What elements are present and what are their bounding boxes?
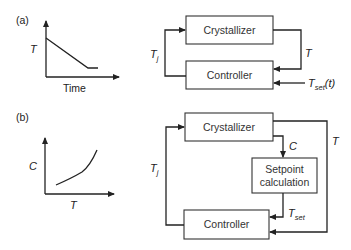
jacket-temp-signal-b [166,127,184,225]
c-label: C [289,140,297,152]
tset-label-b: Tset [288,207,306,222]
diagram-canvas: (a) T Time Crystallizer Controller Tj T … [0,0,351,250]
graph-b-y-label: C [29,160,37,172]
t-label-b: T [332,135,340,147]
panel-a-graph: T Time [30,21,119,94]
setpoint-label-line2: calculation [260,176,310,188]
setpoint-signal-b [270,193,283,217]
temperature-profile-line [46,38,98,68]
graph-a-y-label: T [30,43,38,55]
jacket-temp-signal-a [165,30,186,76]
crystallizer-label-a: Crystallizer [204,24,256,36]
panel-a-label: (a) [16,14,29,26]
tj-label-a: Tj [150,48,159,63]
measured-temp-signal-a [273,30,301,69]
tset-label-a: Tset(t) [308,77,335,92]
panel-b-graph: C T [29,138,114,211]
controller-label-b: Controller [204,218,250,230]
graph-a-x-label: Time [63,82,86,94]
graph-b-x-label: T [70,199,78,211]
solubility-curve [56,150,97,185]
controller-label-a: Controller [207,69,253,81]
tj-label-b: Tj [150,162,159,177]
panel-b-label: (b) [16,111,29,123]
setpoint-label-line1: Setpoint [265,163,304,175]
panel-a-block-diagram: Crystallizer Controller Tj T Tset(t) [150,16,335,92]
crystallizer-label-b: Crystallizer [203,121,255,133]
panel-b-block-diagram: Crystallizer Setpoint calculation Contro… [150,113,340,239]
concentration-signal [273,136,283,157]
t-label-a: T [305,47,313,59]
